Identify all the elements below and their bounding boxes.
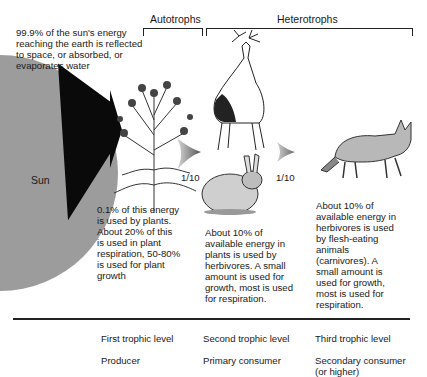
transfer-ratio-2: 1/10 <box>276 172 295 183</box>
level-role: Secondary consumer (or higher) <box>315 355 406 377</box>
level-role: Primary consumer <box>203 355 281 366</box>
sun-energy-note: 99.9% of the sun's energy reaching the e… <box>16 27 142 71</box>
level-name: Second trophic level <box>203 333 289 344</box>
transfer-ratio-1: 1/10 <box>181 172 200 183</box>
trophic-level-1: First trophic level Producer <box>101 322 174 366</box>
autotrophs-bracket <box>143 28 203 36</box>
producer-description: 0.1% of this energy is used by plants. A… <box>97 204 180 281</box>
energy-arrow-herbivore-to-carnivore <box>277 142 301 166</box>
level-role: Producer <box>101 355 140 366</box>
coyote-icon <box>315 112 415 182</box>
autotrophs-label: Autotrophs <box>150 13 201 25</box>
secondary-consumer-description: About 10% of available energy in herbivo… <box>316 200 396 310</box>
primary-consumer-description: About 10% of available energy in plants … <box>205 227 293 304</box>
trophic-level-3: Third trophic level Secondary consumer (… <box>315 322 406 377</box>
heterotrophs-label: Heterotrophs <box>277 13 338 25</box>
trophic-level-2: Second trophic level Primary consumer <box>203 322 289 366</box>
rabbit-icon <box>200 152 270 217</box>
divider-line <box>13 318 410 320</box>
level-name: First trophic level <box>101 333 174 344</box>
level-name: Third trophic level <box>315 333 391 344</box>
deer-icon <box>204 28 279 153</box>
